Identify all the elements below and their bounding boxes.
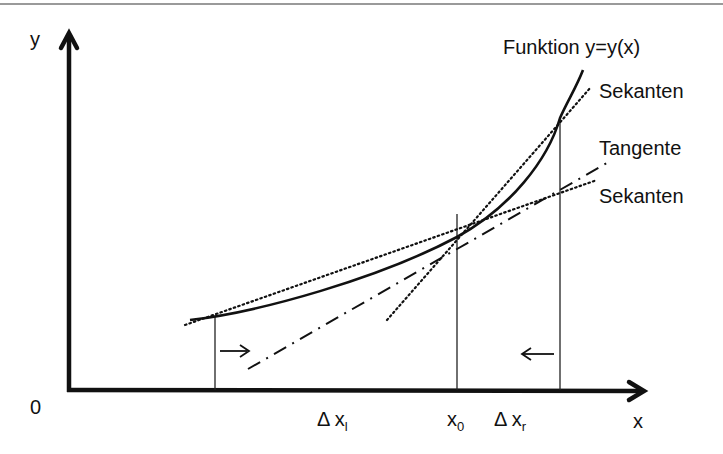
origin-label: 0 (30, 396, 41, 418)
y-axis (61, 33, 77, 392)
secant-lower-label: Sekanten (599, 185, 684, 207)
secant-tangent-diagram: y x 0 Funktion y=y(x) Sekanten Tangente … (0, 0, 723, 454)
delta-x-left-label: Δ xl (317, 408, 348, 434)
x-axis (67, 382, 644, 400)
function-label: Funktion y=y(x) (503, 36, 640, 58)
delta-x-right-label: Δ xr (494, 408, 527, 434)
y-axis-label: y (30, 28, 40, 50)
tangent-label: Tangente (599, 137, 681, 159)
secant-upper-label: Sekanten (599, 80, 684, 102)
function-curve (190, 70, 583, 320)
arrow-right-icon (220, 345, 249, 357)
x-axis-label: x (633, 410, 643, 432)
x0-label: x0 (447, 408, 464, 434)
secant-lower-line (185, 180, 597, 325)
arrow-left-icon (522, 348, 554, 360)
tangent-line (248, 160, 612, 369)
